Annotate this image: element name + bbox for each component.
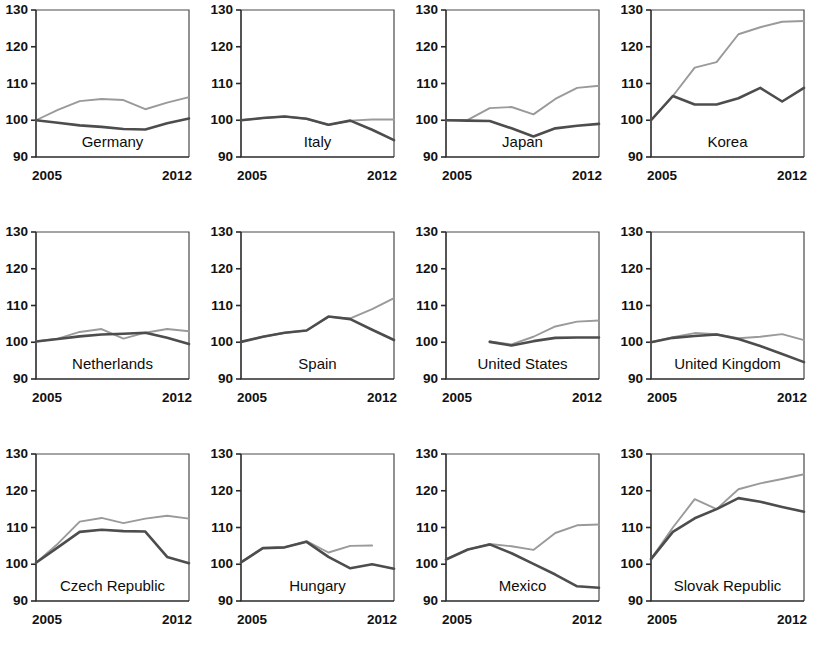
x-tick-label-start: 2005: [32, 390, 63, 405]
y-tick-label: 110: [6, 298, 28, 313]
y-tick-label: 120: [5, 483, 28, 498]
panel-title: Slovak Republic: [674, 577, 782, 594]
panel-title: Spain: [298, 355, 336, 372]
y-tick-label: 110: [621, 520, 643, 535]
y-tick-label: 100: [620, 334, 643, 349]
y-tick-label: 120: [415, 261, 438, 276]
x-tick-label-end: 2012: [162, 168, 192, 183]
y-tick-label: 110: [416, 298, 438, 313]
x-tick-label-end: 2012: [572, 390, 602, 405]
y-tick-label: 110: [6, 520, 28, 535]
y-tick-label: 90: [423, 371, 438, 386]
panel-title: Korea: [707, 133, 748, 150]
series-line-dark: [241, 317, 394, 342]
y-tick-label: 110: [211, 76, 233, 91]
series-line-dark: [36, 333, 189, 344]
x-tick-label-start: 2005: [647, 390, 678, 405]
series-line-light: [490, 321, 599, 345]
panel-title: Hungary: [289, 577, 346, 594]
y-tick-label: 100: [210, 556, 233, 571]
y-tick-label: 110: [416, 76, 438, 91]
panel-slovak-republic: 9010011012013020052012Slovak Republic: [615, 444, 820, 661]
y-tick-label: 120: [415, 39, 438, 54]
x-tick-label-start: 2005: [32, 168, 63, 183]
y-tick-label: 120: [620, 39, 643, 54]
y-tick-label: 130: [620, 2, 643, 17]
panel-title: United Kingdom: [674, 355, 781, 372]
y-tick-label: 130: [620, 224, 643, 239]
y-tick-label: 120: [620, 261, 643, 276]
x-tick-label-start: 2005: [442, 168, 473, 183]
x-tick-label-start: 2005: [32, 612, 63, 627]
x-tick-label-end: 2012: [572, 612, 602, 627]
panel-title: United States: [477, 355, 567, 372]
panel-title: Italy: [304, 133, 332, 150]
series-line-dark: [651, 88, 804, 120]
x-tick-label-end: 2012: [162, 612, 192, 627]
panel-title: Netherlands: [72, 355, 153, 372]
y-tick-label: 90: [218, 593, 233, 608]
y-tick-label: 130: [210, 2, 233, 17]
x-tick-label-end: 2012: [777, 612, 807, 627]
series-line-light: [36, 97, 189, 120]
panel-spain: 9010011012013020052012Spain: [205, 222, 410, 442]
y-tick-label: 110: [416, 520, 438, 535]
x-tick-label-end: 2012: [777, 390, 807, 405]
y-tick-label: 110: [6, 76, 28, 91]
y-tick-label: 100: [210, 334, 233, 349]
y-tick-label: 120: [415, 483, 438, 498]
y-tick-label: 100: [5, 556, 28, 571]
x-tick-label-start: 2005: [647, 612, 678, 627]
y-tick-label: 90: [218, 149, 233, 164]
series-line-light: [241, 541, 372, 562]
y-tick-label: 130: [415, 446, 438, 461]
y-tick-label: 130: [5, 2, 28, 17]
y-tick-label: 90: [628, 149, 643, 164]
panel-korea: 9010011012013020052012Korea: [615, 0, 820, 220]
series-line-light: [651, 474, 804, 559]
series-line-light: [651, 21, 804, 120]
y-tick-label: 120: [210, 39, 233, 54]
panel-czech-republic: 9010011012013020052012Czech Republic: [0, 444, 205, 661]
y-tick-label: 130: [415, 224, 438, 239]
x-tick-label-start: 2005: [647, 168, 678, 183]
y-tick-label: 100: [415, 556, 438, 571]
y-tick-label: 110: [211, 298, 233, 313]
small-multiples-chart: 9010011012013020052012Germany90100110120…: [0, 0, 823, 661]
y-tick-label: 120: [5, 261, 28, 276]
x-tick-label-start: 2005: [237, 612, 268, 627]
y-tick-label: 120: [210, 261, 233, 276]
y-tick-label: 110: [211, 520, 233, 535]
y-tick-label: 120: [620, 483, 643, 498]
x-tick-label-start: 2005: [237, 168, 268, 183]
x-tick-label-end: 2012: [162, 390, 192, 405]
x-tick-label-end: 2012: [367, 390, 397, 405]
x-tick-label-end: 2012: [777, 168, 807, 183]
y-tick-label: 90: [13, 149, 28, 164]
y-tick-label: 130: [5, 224, 28, 239]
y-tick-label: 100: [5, 112, 28, 127]
series-line-dark: [490, 337, 599, 345]
y-tick-label: 120: [5, 39, 28, 54]
series-line-dark: [36, 530, 189, 563]
x-tick-label-end: 2012: [367, 168, 397, 183]
y-tick-label: 130: [620, 446, 643, 461]
panel-netherlands: 9010011012013020052012Netherlands: [0, 222, 205, 442]
y-tick-label: 90: [423, 149, 438, 164]
y-tick-label: 90: [218, 371, 233, 386]
panel-title: Mexico: [499, 577, 547, 594]
y-tick-label: 100: [620, 556, 643, 571]
series-line-light: [446, 525, 599, 560]
panel-japan: 9010011012013020052012Japan: [410, 0, 615, 220]
panel-germany: 9010011012013020052012Germany: [0, 0, 205, 220]
y-tick-label: 110: [621, 298, 643, 313]
series-line-light: [446, 86, 599, 121]
y-tick-label: 130: [210, 446, 233, 461]
x-tick-label-end: 2012: [367, 612, 397, 627]
y-tick-label: 100: [5, 334, 28, 349]
y-tick-label: 100: [415, 112, 438, 127]
y-tick-label: 100: [210, 112, 233, 127]
y-tick-label: 120: [210, 483, 233, 498]
y-tick-label: 90: [13, 371, 28, 386]
panel-title: Czech Republic: [60, 577, 166, 594]
